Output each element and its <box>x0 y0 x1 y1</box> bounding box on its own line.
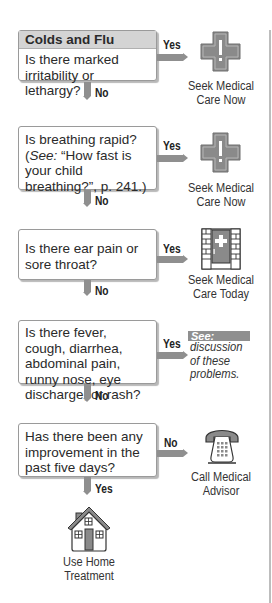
see-line: of these <box>190 355 243 369</box>
outcome-line: Seek Medical <box>181 273 260 287</box>
outcome-line: Advisor <box>181 484 260 498</box>
outcome-label-3: Seek Medical Care Today <box>181 273 260 301</box>
question-box-1: Colds and Flu Is there marked irritabili… <box>18 30 157 81</box>
yes-arrow <box>157 54 183 61</box>
outcome-line: Care Now <box>181 195 260 209</box>
outcome-line: Call Medical <box>181 470 260 484</box>
yes-arrow <box>157 155 183 162</box>
outcome-label-1: Seek Medical Care Now <box>181 79 260 107</box>
yes-arrow <box>157 256 183 263</box>
yes-label: Yes <box>95 482 113 496</box>
outcome-label-5: Call Medical Advisor <box>181 470 260 498</box>
page-divider-rule <box>269 30 271 603</box>
no-label: No <box>164 436 178 450</box>
outcome-line: Seek Medical <box>181 79 260 93</box>
outcome-line: Seek Medical <box>181 181 260 195</box>
yes-label: Yes <box>163 242 181 256</box>
section-title: Colds and Flu <box>19 31 156 49</box>
question-box-2: Is breathing rapid? (See: “How fast is y… <box>18 126 157 190</box>
question-box-4: Is there fever, cough, diarrhea, abdomin… <box>18 320 157 384</box>
no-label: No <box>95 389 109 403</box>
final-outcome-label: Use Home Treatment <box>49 555 128 583</box>
medical-cross-icon <box>200 31 241 72</box>
question-box-5: Has there been any improvement in the pa… <box>18 423 157 477</box>
yes-label: Yes <box>163 337 181 351</box>
outcome-line: Care Today <box>181 287 260 301</box>
no-arrow <box>84 384 91 398</box>
no-arrow <box>157 450 183 457</box>
no-label: No <box>95 284 109 298</box>
outcome-label-2: Seek Medical Care Now <box>181 181 260 209</box>
yes-label: Yes <box>163 139 181 153</box>
see-reference-text: discussion of these problems. <box>190 341 243 382</box>
see-line: discussion <box>190 341 243 355</box>
yes-arrow <box>84 477 91 491</box>
yes-arrow <box>157 352 183 359</box>
question-text: Has there been any improvement in the pa… <box>19 424 156 480</box>
outcome-line: Care Now <box>181 93 260 107</box>
no-arrow <box>84 190 91 203</box>
question-text: Is breathing rapid? (See: “How fast is y… <box>19 127 156 198</box>
telephone-icon <box>203 424 241 465</box>
medical-cross-icon <box>200 132 241 173</box>
clinic-door-icon <box>201 228 241 270</box>
no-arrow <box>84 280 91 292</box>
no-label: No <box>95 194 109 208</box>
yes-label: Yes <box>163 38 181 52</box>
question-box-3: Is there ear pain or sore throat? <box>18 229 157 280</box>
no-arrow <box>84 82 91 96</box>
house-icon <box>66 505 112 553</box>
no-label: No <box>95 86 109 100</box>
outcome-line: Use Home <box>49 555 128 569</box>
outcome-line: Treatment <box>49 569 128 583</box>
see-line: problems. <box>190 368 243 382</box>
question-text: Is there ear pain or sore throat? <box>19 230 156 276</box>
